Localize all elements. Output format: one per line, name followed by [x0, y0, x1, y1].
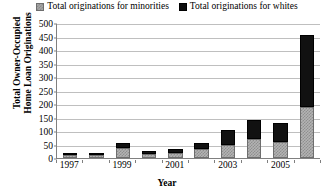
y-tick-label: 200	[39, 100, 53, 110]
chart-legend: Total originations for minorities Total …	[0, 1, 334, 12]
bar-stack[interactable]	[221, 130, 235, 158]
x-tick-label: 1999	[113, 160, 132, 171]
bar-segment-whites[interactable]	[300, 35, 314, 107]
x-tick-mark	[214, 160, 215, 163]
bar-stack[interactable]	[63, 153, 77, 158]
x-tick-label: 2005	[271, 160, 290, 171]
bar-slot-2001	[162, 24, 188, 158]
bar-segment-minorities[interactable]	[168, 153, 182, 158]
bar-stack[interactable]	[194, 143, 208, 158]
x-tick-slot: 2005	[267, 160, 293, 174]
bar-segment-minorities[interactable]	[142, 154, 156, 158]
bar-stack[interactable]	[89, 153, 103, 158]
legend-item-minorities: Total originations for minorities	[36, 1, 169, 12]
x-tick-mark	[162, 160, 163, 163]
y-tick-label: 100	[39, 127, 53, 137]
x-tick-slot: 1997	[56, 160, 82, 174]
x-tick-mark	[109, 160, 110, 163]
y-tick-label: 300	[39, 73, 53, 83]
x-tick-mark	[135, 160, 136, 163]
bar-slot-2006	[294, 24, 320, 158]
bar-segment-minorities[interactable]	[194, 149, 208, 158]
bar-segment-minorities[interactable]	[116, 148, 130, 158]
bar-stack[interactable]	[247, 120, 261, 158]
x-tick-mark	[320, 160, 321, 163]
bar-slot-2002	[188, 24, 214, 158]
x-tick-mark	[82, 160, 83, 163]
y-tick-label: 350	[39, 60, 53, 70]
plot-area: 050100150200250300350400450500	[56, 24, 320, 159]
x-tick-slot	[188, 160, 214, 174]
chart-container: Total originations for minorities Total …	[0, 0, 334, 196]
x-tick-slot	[294, 160, 320, 174]
x-tick-mark	[188, 160, 189, 163]
bar-stack[interactable]	[273, 123, 287, 158]
bar-slot-2005	[267, 24, 293, 158]
x-tick-slot: 2001	[162, 160, 188, 174]
x-tick-mark	[267, 160, 268, 163]
bar-slot-1999	[110, 24, 136, 158]
bar-segment-minorities[interactable]	[89, 155, 103, 158]
y-tick-label: 0	[48, 154, 53, 164]
y-axis-title-line1: Total Owner-Occupied	[12, 17, 24, 109]
bar-segment-minorities[interactable]	[300, 107, 314, 158]
bar-segment-minorities[interactable]	[221, 145, 235, 158]
bar-slot-1997	[57, 24, 83, 158]
bar-stack[interactable]	[300, 35, 314, 158]
bar-stack[interactable]	[116, 143, 130, 158]
bar-segment-minorities[interactable]	[247, 139, 261, 158]
y-tick-label: 450	[39, 33, 53, 43]
x-tick-slot	[82, 160, 108, 174]
y-tick-label: 50	[44, 141, 54, 151]
legend-label-whites: Total originations for whites	[190, 1, 298, 12]
y-tick-label: 400	[39, 46, 53, 56]
x-tick-slot	[241, 160, 267, 174]
x-tick-mark	[294, 160, 295, 163]
x-tick-label: 1997	[60, 160, 79, 171]
bar-slot-2004	[241, 24, 267, 158]
x-tick-slot: 2003	[214, 160, 240, 174]
y-tick-label: 500	[39, 19, 53, 29]
x-tick-mark	[56, 160, 57, 163]
bar-segment-whites[interactable]	[247, 120, 261, 139]
bar-slot-2003	[215, 24, 241, 158]
x-axis-ticks: 19971999200120032005	[56, 160, 320, 174]
x-tick-mark	[241, 160, 242, 163]
bar-segment-minorities[interactable]	[273, 142, 287, 158]
bar-stack[interactable]	[142, 151, 156, 158]
legend-item-whites: Total originations for whites	[179, 1, 298, 12]
x-tick-slot: 1999	[109, 160, 135, 174]
bar-segment-whites[interactable]	[273, 123, 287, 142]
legend-label-minorities: Total originations for minorities	[47, 1, 169, 12]
bar-slot-1998	[83, 24, 109, 158]
x-tick-label: 2003	[218, 160, 237, 171]
y-tick-label: 150	[39, 114, 53, 124]
bar-segment-minorities[interactable]	[63, 155, 77, 158]
bar-segment-whites[interactable]	[221, 130, 235, 145]
y-axis-title-line2: Home Loan Originations	[23, 12, 35, 113]
x-tick-slot	[135, 160, 161, 174]
bar-stack[interactable]	[168, 149, 182, 158]
x-axis-title: Year	[0, 178, 334, 189]
whites-swatch-icon	[179, 3, 187, 11]
x-tick-label: 2001	[165, 160, 184, 171]
bar-slot-2000	[136, 24, 162, 158]
bar-series-group	[57, 24, 320, 158]
y-tick-label: 250	[39, 87, 53, 97]
